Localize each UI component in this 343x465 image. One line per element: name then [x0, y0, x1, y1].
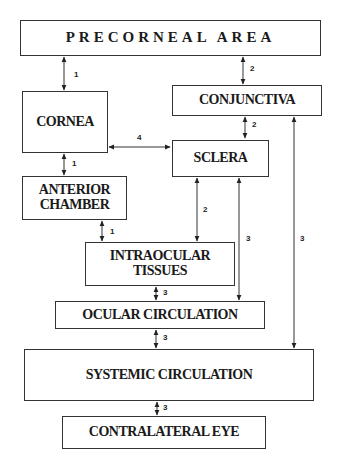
edge-label: 2: [252, 120, 256, 129]
node-label-line1: INTRAOCULAR: [110, 249, 210, 264]
edge-label: 2: [203, 205, 207, 214]
edge-label: 3: [163, 333, 167, 342]
node-label: OCULAR CIRCULATION: [82, 308, 237, 323]
edge-label: 3: [246, 234, 250, 243]
edge-label: 3: [163, 288, 167, 297]
node-cornea: CORNEA: [22, 91, 108, 153]
node-ocular-circulation: OCULAR CIRCULATION: [55, 301, 265, 329]
node-systemic-circulation: SYSTEMIC CIRCULATION: [24, 349, 314, 401]
edge-label: 4: [137, 133, 141, 142]
edge-label: 1: [110, 227, 114, 236]
node-label: CORNEA: [36, 115, 94, 130]
node-label-line1: ANTERIOR: [39, 183, 110, 198]
node-anterior-chamber: ANTERIOR CHAMBER: [22, 176, 127, 220]
node-label: SYSTEMIC CIRCULATION: [86, 368, 253, 383]
node-label: CONJUNCTIVA: [199, 93, 295, 108]
edge-label: 1: [72, 159, 76, 168]
node-conjunctiva: CONJUNCTIVA: [172, 85, 322, 116]
node-label: PRECORNEAL AREA: [66, 30, 276, 46]
node-label-line2: TISSUES: [133, 264, 187, 279]
node-contralateral-eye: CONTRALATERAL EYE: [62, 416, 266, 449]
edge-label: 3: [300, 234, 304, 243]
node-precorneal-area: PRECORNEAL AREA: [20, 20, 321, 56]
edge-label: 1: [74, 70, 78, 79]
node-intraocular-tissues: INTRAOCULAR TISSUES: [85, 242, 235, 286]
node-label-line2: CHAMBER: [40, 198, 110, 213]
node-label: CONTRALATERAL EYE: [89, 425, 239, 440]
node-label: SCLERA: [194, 151, 248, 166]
node-sclera: SCLERA: [172, 140, 269, 177]
edge-label: 3: [163, 403, 167, 412]
edge-label: 2: [250, 64, 254, 73]
